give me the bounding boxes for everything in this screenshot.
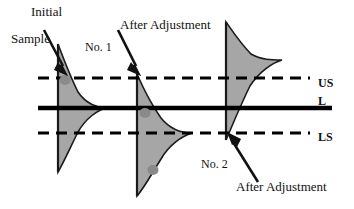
label-sample: Sample [11, 32, 50, 45]
sample-dot-initial [60, 75, 71, 85]
distribution-no-1 [137, 74, 192, 196]
label-center-line: L [318, 95, 326, 107]
label-after-adjustment-bottom: After Adjustment [236, 180, 327, 193]
distribution-no-2 [226, 22, 282, 140]
process-adjustment-diagram: Initial Sample After Adjustment No. 1 No… [0, 0, 354, 209]
label-after-adjustment-top: After Adjustment [120, 18, 211, 31]
label-initial: Initial [31, 5, 62, 18]
sample-dot-no-2 [148, 165, 159, 175]
label-upper-spec: US [318, 77, 333, 89]
distribution-no-2-shape [226, 22, 282, 140]
arrow-after-adjustment-top [118, 30, 141, 76]
sample-dot-no-1 [140, 108, 151, 118]
distribution-no-1-shape [137, 74, 192, 196]
label-no-2: No. 2 [201, 158, 228, 170]
label-lower-spec: LS [318, 131, 333, 143]
label-no-1: No. 1 [85, 41, 112, 53]
arrow-after-adjustment-bottom [227, 132, 258, 182]
